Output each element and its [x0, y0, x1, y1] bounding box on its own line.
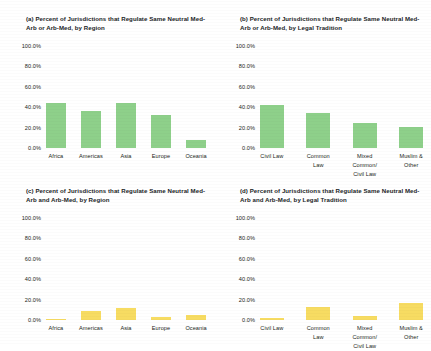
panel-b-bar-group: Civil Law — [260, 46, 284, 148]
panel-c-ytick-0: 0.0% — [28, 317, 41, 323]
panel-c-plot-area: 0.0%20.0%40.0%60.0%80.0%100.0% AfricaAme… — [46, 218, 206, 320]
bar — [151, 115, 171, 148]
chart-panel-a: (a) Percent of Jurisdictions that Regula… — [0, 0, 216, 172]
panel-b-title: (b) Percent of Jurisdictions that Regula… — [240, 14, 420, 33]
panel-a-ytick-80: 80.0% — [25, 63, 41, 69]
panel-b-plot-area: 0.0%20.0%40.0%60.0%80.0%100.0% Civil Law… — [260, 46, 423, 148]
chart-panel-c: (c) Percent of Jurisdictions that Regula… — [0, 172, 216, 344]
panel-b-ytick-20: 20.0% — [239, 125, 255, 131]
panel-b-bars: Civil LawCommon LawMixed Common/ Civil L… — [260, 46, 423, 148]
bar — [151, 317, 171, 320]
panel-b-xtick-label: Civil Law — [249, 152, 295, 161]
panel-d-xtick-label: Common Law — [295, 324, 341, 342]
panel-a-title: (a) Percent of Jurisdictions that Regula… — [26, 14, 206, 33]
panel-b-bar-group: Muslim & Other — [399, 46, 423, 148]
panel-d-bars: Civil LawCommon LawMixed Common/ Civil L… — [260, 218, 423, 320]
panel-a-bars: AfricaAmericasAsiaEuropeOceania — [46, 46, 206, 148]
panel-c-title: (c) Percent of Jurisdictions that Regula… — [26, 186, 206, 205]
panel-c-ytick-100: 100.0% — [22, 215, 41, 221]
panel-b-ytick-100: 100.0% — [236, 43, 255, 49]
bar — [46, 319, 66, 320]
bar — [81, 111, 101, 148]
panel-d-ytick-20: 20.0% — [239, 297, 255, 303]
bar — [260, 318, 284, 320]
chart-panel-b: (b) Percent of Jurisdictions that Regula… — [216, 0, 431, 172]
panel-a-bar-group: Africa — [46, 46, 66, 148]
panel-a-bar-group: Americas — [81, 46, 101, 148]
bar — [399, 303, 423, 320]
panel-b-ytick-40: 40.0% — [239, 104, 255, 110]
chart-panel-d: (d) Percent of Jurisdictions that Regula… — [216, 172, 431, 344]
bar — [81, 311, 101, 320]
bar — [306, 307, 330, 320]
panel-b-bar-group: Common Law — [306, 46, 330, 148]
panel-d-bar-group: Common Law — [306, 218, 330, 320]
panel-a-bar-group: Europe — [151, 46, 171, 148]
panel-b-xtick-label: Common Law — [295, 152, 341, 170]
panel-a-bar-group: Oceania — [186, 46, 206, 148]
panel-a-bar-group: Asia — [116, 46, 136, 148]
panel-c-ytick-40: 40.0% — [25, 276, 41, 282]
bar — [260, 105, 284, 148]
panel-c-bar-group: Oceania — [186, 218, 206, 320]
panel-c-ytick-20: 20.0% — [25, 297, 41, 303]
panel-c-ytick-60: 60.0% — [25, 256, 41, 262]
panel-d-xtick-label: Muslim & Other — [388, 324, 431, 342]
panel-a-plot-area: 0.0%20.0%40.0%60.0%80.0%100.0% AfricaAme… — [46, 46, 206, 148]
panel-d-ytick-60: 60.0% — [239, 256, 255, 262]
bar — [46, 103, 66, 148]
bar — [116, 308, 136, 320]
panel-c-bars: AfricaAmericasAsiaEuropeOceania — [46, 218, 206, 320]
panel-d-bar-group: Civil Law — [260, 218, 284, 320]
panel-b-ytick-80: 80.0% — [239, 63, 255, 69]
panel-d-ytick-80: 80.0% — [239, 235, 255, 241]
panel-c-bar-group: Asia — [116, 218, 136, 320]
panel-c-bar-group: Americas — [81, 218, 101, 320]
panel-d-ytick-40: 40.0% — [239, 276, 255, 282]
panel-d-bar-group: Mixed Common/ Civil Law — [353, 218, 377, 320]
panel-d-ytick-100: 100.0% — [236, 215, 255, 221]
panel-c-xtick-label: Oceania — [175, 324, 217, 333]
panel-b-bar-group: Mixed Common/ Civil Law — [353, 46, 377, 148]
panel-d-title: (d) Percent of Jurisdictions that Regula… — [240, 186, 420, 205]
bar — [353, 316, 377, 320]
bar — [116, 103, 136, 148]
panel-d-xtick-label: Mixed Common/ Civil Law — [342, 324, 388, 351]
panel-b-ytick-0: 0.0% — [242, 145, 255, 151]
panel-b-xtick-label: Muslim & Other — [388, 152, 431, 170]
panel-d-plot-area: 0.0%20.0%40.0%60.0%80.0%100.0% Civil Law… — [260, 218, 423, 320]
panel-a-ytick-40: 40.0% — [25, 104, 41, 110]
panel-a-xtick-label: Oceania — [175, 152, 217, 161]
bar — [353, 123, 377, 149]
panel-c-bar-group: Africa — [46, 218, 66, 320]
panel-a-ytick-100: 100.0% — [22, 43, 41, 49]
panel-c-ytick-80: 80.0% — [25, 235, 41, 241]
bar — [186, 140, 206, 148]
panel-c-bar-group: Europe — [151, 218, 171, 320]
panel-a-ytick-60: 60.0% — [25, 84, 41, 90]
panel-d-xtick-label: Civil Law — [249, 324, 295, 333]
bar — [399, 127, 423, 148]
bar — [186, 315, 206, 320]
bar — [306, 113, 330, 148]
panel-a-ytick-0: 0.0% — [28, 145, 41, 151]
panel-b-ytick-60: 60.0% — [239, 84, 255, 90]
panel-d-ytick-0: 0.0% — [242, 317, 255, 323]
panel-d-bar-group: Muslim & Other — [399, 218, 423, 320]
panel-a-ytick-20: 20.0% — [25, 125, 41, 131]
